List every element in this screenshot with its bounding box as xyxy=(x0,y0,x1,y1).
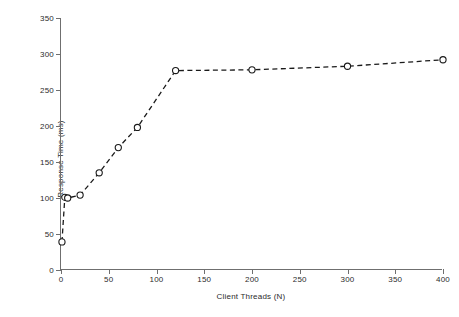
x-tick-label-0: 0 xyxy=(59,275,64,284)
data-point xyxy=(134,124,140,130)
data-point xyxy=(344,63,350,69)
series-markers xyxy=(59,57,446,245)
y-tick-200 xyxy=(56,126,61,127)
y-tick-label-350: 350 xyxy=(40,14,54,23)
x-tick-label-250: 250 xyxy=(293,275,307,284)
y-tick-250 xyxy=(56,90,61,91)
y-tick-150 xyxy=(56,162,61,163)
y-tick-label-50: 50 xyxy=(45,230,54,239)
x-axis-title: Client Threads (N) xyxy=(60,292,442,301)
x-tick-350 xyxy=(395,269,396,274)
x-tick-50 xyxy=(109,269,110,274)
y-tick-100 xyxy=(56,198,61,199)
y-tick-350 xyxy=(56,18,61,19)
chart-container: Response Time (ms) 050100150200250300350… xyxy=(0,0,459,317)
data-point xyxy=(59,239,65,245)
data-point xyxy=(173,67,179,73)
x-tick-250 xyxy=(300,269,301,274)
y-tick-label-200: 200 xyxy=(40,122,54,131)
data-point xyxy=(249,67,255,73)
series-plot xyxy=(61,18,443,270)
y-tick-label-0: 0 xyxy=(49,266,54,275)
y-tick-label-100: 100 xyxy=(40,194,54,203)
data-point xyxy=(440,57,446,63)
x-tick-300 xyxy=(348,269,349,274)
x-tick-label-300: 300 xyxy=(341,275,355,284)
y-tick-label-250: 250 xyxy=(40,86,54,95)
data-point xyxy=(115,145,121,151)
data-point xyxy=(65,195,71,201)
x-tick-label-400: 400 xyxy=(436,275,450,284)
y-tick-label-300: 300 xyxy=(40,50,54,59)
x-tick-0 xyxy=(61,269,62,274)
x-tick-400 xyxy=(443,269,444,274)
x-tick-label-100: 100 xyxy=(150,275,164,284)
x-tick-label-150: 150 xyxy=(197,275,211,284)
data-point xyxy=(96,170,102,176)
plot-area: 050100150200250300350 050100150200250300… xyxy=(60,18,442,270)
y-tick-50 xyxy=(56,234,61,235)
x-tick-label-350: 350 xyxy=(388,275,402,284)
y-tick-label-150: 150 xyxy=(40,158,54,167)
x-tick-label-200: 200 xyxy=(245,275,259,284)
x-tick-200 xyxy=(252,269,253,274)
data-point xyxy=(77,192,83,198)
y-tick-300 xyxy=(56,54,61,55)
x-tick-150 xyxy=(204,269,205,274)
x-tick-label-50: 50 xyxy=(104,275,113,284)
x-tick-100 xyxy=(157,269,158,274)
